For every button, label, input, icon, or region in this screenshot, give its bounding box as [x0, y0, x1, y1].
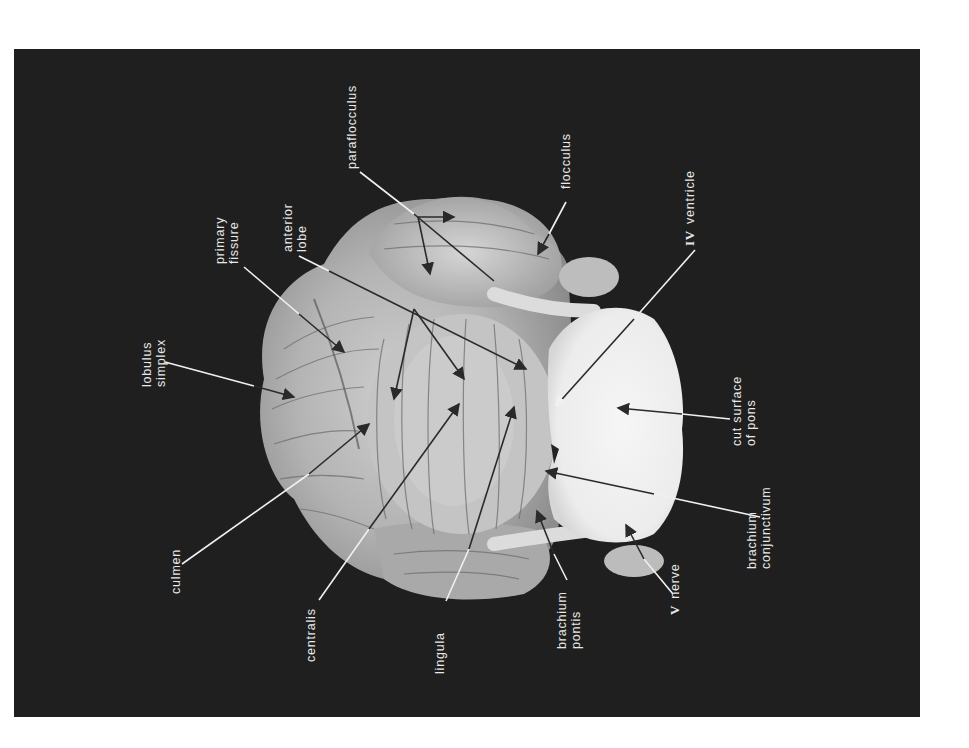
label-brachium-pontis: brachium pontis	[555, 591, 583, 649]
specimen-photograph: lobulus simplex primary fissure anterior…	[14, 49, 920, 717]
label-culmen: culmen	[169, 549, 183, 594]
label-anterior-lobe: anterior lobe	[281, 203, 309, 252]
label-line: flocculus	[559, 133, 573, 189]
label-centralis: centralis	[304, 608, 318, 662]
label-v-nerve: Vnerve	[668, 564, 682, 615]
label-line: lobe	[295, 203, 309, 252]
label-line: lobulus	[140, 339, 154, 387]
label-line: brachium	[745, 486, 759, 569]
label-line: cut surface	[730, 376, 744, 446]
label-paraflocculus: paraflocculus	[345, 85, 359, 169]
label-line: culmen	[169, 549, 183, 594]
label-brachium-conjunctivum: brachium conjunctivum	[745, 486, 773, 569]
roman-numeral-v: V	[668, 605, 682, 615]
label-line: pontis	[569, 591, 583, 649]
label-iv-ventricle: IVventricle	[683, 170, 697, 246]
label-line: paraflocculus	[345, 85, 359, 169]
label-line: fissure	[227, 217, 241, 264]
label-lingula: lingula	[433, 632, 447, 674]
label-primary-fissure: primary fissure	[213, 217, 241, 264]
label-lobulus-simplex: lobulus simplex	[140, 339, 168, 387]
label-line: nerve	[668, 564, 682, 599]
label-line: simplex	[154, 339, 168, 387]
label-line: of pons	[744, 376, 758, 446]
label-line: ventricle	[683, 170, 697, 224]
label-line: conjunctivum	[759, 486, 773, 569]
label-line: lingula	[433, 632, 447, 674]
label-line: centralis	[304, 608, 318, 662]
roman-numeral-iv: IV	[683, 230, 697, 246]
label-line: anterior	[281, 203, 295, 252]
label-line: brachium	[555, 591, 569, 649]
label-flocculus: flocculus	[559, 133, 573, 189]
pons-cut-surface	[548, 308, 683, 543]
label-line: primary	[213, 217, 227, 264]
label-cut-surface-of-pons: cut surface of pons	[730, 376, 758, 446]
